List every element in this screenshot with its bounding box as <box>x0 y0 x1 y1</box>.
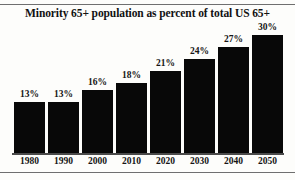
bar <box>14 102 45 154</box>
bottom-divider-rule <box>0 172 295 173</box>
x-tick-label: 2020 <box>149 156 183 166</box>
x-tick-label: 2030 <box>183 156 217 166</box>
bar-value-label: 21% <box>150 58 181 68</box>
bar-group: 30% <box>252 22 283 154</box>
bar-group: 18% <box>116 22 147 154</box>
bar-value-label: 13% <box>48 89 79 99</box>
chart-title: Minority 65+ population as percent of to… <box>0 7 295 19</box>
bar-value-label: 16% <box>82 77 113 87</box>
x-tick-label: 2010 <box>115 156 149 166</box>
x-tick-label: 2050 <box>251 156 285 166</box>
bar-group: 27% <box>218 22 249 154</box>
bar-value-label: 30% <box>252 22 283 32</box>
bar <box>116 83 147 154</box>
bar-value-label: 27% <box>218 34 249 44</box>
bar <box>48 102 79 154</box>
bar <box>184 59 215 154</box>
x-tick-label: 1990 <box>47 156 81 166</box>
bar <box>252 35 283 154</box>
bar-group: 16% <box>82 22 113 154</box>
bar-value-label: 18% <box>116 70 147 80</box>
bar-value-label: 24% <box>184 46 215 56</box>
x-tick-label: 2000 <box>81 156 115 166</box>
chart-figure: Minority 65+ population as percent of to… <box>0 0 295 180</box>
bar-value-label: 13% <box>14 89 45 99</box>
bar-group: 13% <box>48 22 79 154</box>
bar-group: 24% <box>184 22 215 154</box>
bar <box>82 90 113 154</box>
bar <box>218 47 249 154</box>
bar <box>150 71 181 154</box>
x-tick-label: 2040 <box>217 156 251 166</box>
x-axis-tick-labels: 19801990200020102020203020402050 <box>0 156 295 172</box>
x-tick-label: 1980 <box>13 156 47 166</box>
bar-group: 21% <box>150 22 181 154</box>
plot-area: 13%13%16%18%21%24%27%30% <box>0 22 295 154</box>
bar-group: 13% <box>14 22 45 154</box>
top-divider-rule <box>0 4 295 5</box>
x-axis-line <box>12 153 284 155</box>
